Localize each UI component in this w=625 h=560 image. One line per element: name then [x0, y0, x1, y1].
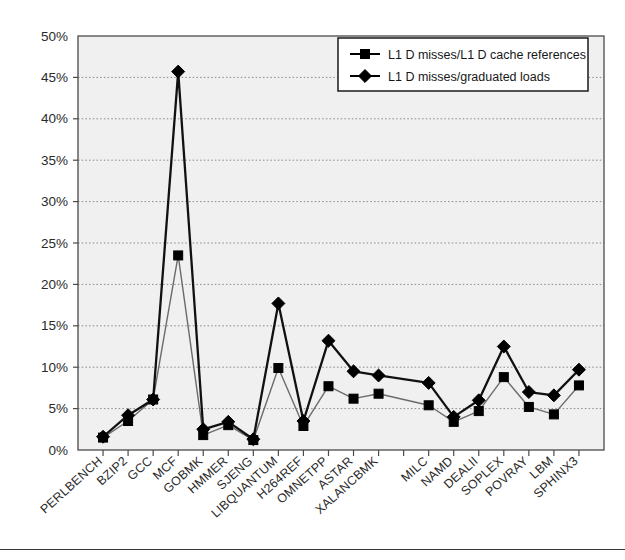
square-marker	[361, 50, 370, 59]
line-chart: 0%5%10%15%20%25%30%35%40%45%50%PERLBENCH…	[0, 0, 625, 560]
x-tick-label: GCC	[125, 454, 155, 483]
square-marker	[174, 251, 183, 260]
y-tick-label: 40%	[41, 111, 68, 126]
legend-label: L1 D misses/L1 D cache references	[388, 48, 586, 62]
square-marker	[274, 364, 283, 373]
square-marker	[574, 381, 583, 390]
square-marker	[349, 394, 358, 403]
legend: L1 D misses/L1 D cache referencesL1 D mi…	[338, 38, 588, 91]
square-marker	[324, 382, 333, 391]
square-marker	[549, 410, 558, 419]
y-tick-label: 50%	[41, 29, 68, 44]
y-tick-label: 10%	[41, 360, 68, 375]
y-tick-label: 5%	[48, 401, 68, 416]
legend-label: L1 D misses/graduated loads	[388, 70, 550, 84]
x-tick-label: PERLBENCH	[38, 454, 105, 517]
x-tick-labels: PERLBENCHBZIP2GCCMCFGOBMKHMMERSJENGLIBQU…	[38, 454, 581, 521]
square-marker	[424, 401, 433, 410]
y-axis: 0%5%10%15%20%25%30%35%40%45%50%	[41, 29, 78, 458]
y-tick-label: 0%	[48, 443, 68, 458]
square-marker	[474, 407, 483, 416]
x-axis	[103, 450, 579, 456]
y-tick-label: 25%	[41, 236, 68, 251]
y-tick-label: 35%	[41, 153, 68, 168]
footer-divider	[0, 549, 625, 550]
square-marker	[374, 389, 383, 398]
y-tick-label: 20%	[41, 277, 68, 292]
square-marker	[524, 402, 533, 411]
y-tick-label: 15%	[41, 318, 68, 333]
chart-figure: 0%5%10%15%20%25%30%35%40%45%50%PERLBENCH…	[0, 0, 625, 560]
y-tick-label: 45%	[41, 70, 68, 85]
square-marker	[499, 373, 508, 382]
y-tick-label: 30%	[41, 194, 68, 209]
